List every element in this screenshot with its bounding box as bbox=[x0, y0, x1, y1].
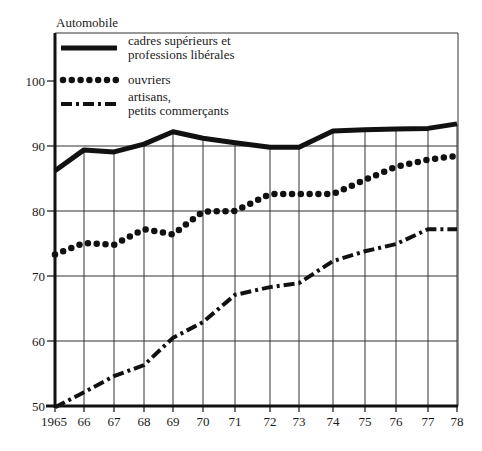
y-tick-label: 80 bbox=[32, 204, 45, 219]
x-tick-label: 69 bbox=[167, 414, 180, 429]
data-series bbox=[55, 124, 457, 407]
legend-label: ouvriers bbox=[128, 72, 171, 87]
grid-lines bbox=[55, 124, 457, 406]
legend-label: cadres supérieurs et bbox=[128, 33, 231, 48]
y-tick-label: 70 bbox=[32, 269, 45, 284]
x-tick-label: 77 bbox=[422, 414, 436, 429]
series-line-dotted bbox=[55, 156, 457, 255]
chart-title: Automobile bbox=[56, 15, 118, 30]
y-tick-label: 100 bbox=[26, 74, 46, 89]
x-tick-label: 67 bbox=[108, 414, 122, 429]
x-tick-label: 66 bbox=[78, 414, 92, 429]
x-tick-label: 73 bbox=[293, 414, 306, 429]
x-tick-label: 72 bbox=[264, 414, 277, 429]
x-tick-label: 70 bbox=[197, 414, 210, 429]
legend-label: petits commerçants bbox=[128, 103, 229, 118]
series-line-dash-dot bbox=[55, 229, 457, 407]
x-tick-label: 78 bbox=[451, 414, 464, 429]
y-tick-label: 60 bbox=[32, 334, 45, 349]
y-tick-label: 50 bbox=[32, 399, 45, 414]
y-tick-label: 90 bbox=[32, 139, 45, 154]
legend-label: artisans, bbox=[128, 89, 171, 104]
x-tick-label: 75 bbox=[359, 414, 372, 429]
x-tick-label: 1965 bbox=[41, 414, 67, 429]
x-tick-label: 74 bbox=[327, 414, 341, 429]
x-axis: 196566676869707172737475767778 bbox=[41, 406, 464, 429]
y-axis: 5060708090100 bbox=[26, 74, 56, 414]
automobile-line-chart: Automobile 5060708090100 196566676869707… bbox=[0, 0, 482, 451]
x-tick-label: 76 bbox=[390, 414, 404, 429]
x-tick-label: 71 bbox=[229, 414, 242, 429]
legend-label: professions libérales bbox=[128, 47, 235, 62]
x-tick-label: 68 bbox=[138, 414, 151, 429]
legend: cadres supérieurs etprofessions libérale… bbox=[61, 33, 235, 118]
series-line-solid bbox=[55, 124, 457, 171]
